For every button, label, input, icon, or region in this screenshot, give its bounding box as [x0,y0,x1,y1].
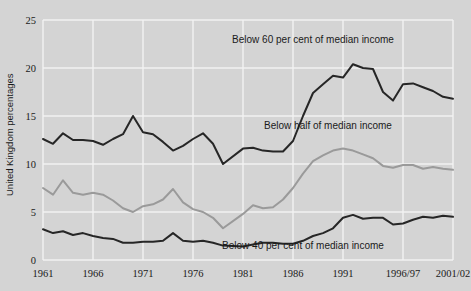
x-axis-ticks: 19611966197119761981198619911996/972001/… [33,268,471,279]
y-tick-label: 25 [26,15,37,26]
x-tick-label: 1971 [133,268,154,279]
x-tick-label: 1961 [33,268,54,279]
series-label: Below 40 per cent of median income [222,240,384,251]
series-label: Below half of median income [264,120,392,131]
x-tick-label: 1996/97 [386,268,420,279]
line-chart: 0510152025 19611966197119761981198619911… [0,0,471,291]
y-tick-label: 5 [31,207,36,218]
y-tick-label: 20 [26,63,37,74]
x-tick-label: 2001/02 [436,268,470,279]
x-tick-label: 1981 [233,268,254,279]
x-tick-label: 1986 [283,268,304,279]
chart-container: 0510152025 19611966197119761981198619911… [0,0,471,291]
x-tick-label: 1991 [333,268,354,279]
y-tick-label: 0 [31,255,36,266]
x-tick-label: 1976 [183,268,204,279]
y-tick-label: 15 [26,111,37,122]
y-axis-title: United Kingdom percentages [4,73,15,196]
x-tick-label: 1966 [83,268,104,279]
y-tick-label: 10 [26,159,37,170]
series-label: Below 60 per cent of median income [232,34,394,45]
